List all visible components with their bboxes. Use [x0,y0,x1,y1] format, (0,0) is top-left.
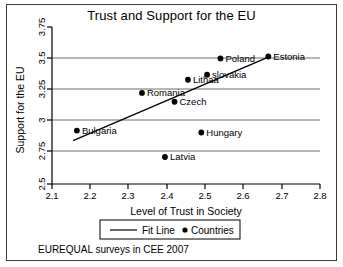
data-point-label: Estonia [273,51,305,62]
data-point-label: slovakia [212,69,247,80]
data-point [185,77,191,83]
legend-countries-swatch [182,227,187,232]
x-tick-label: 2.2 [83,190,96,201]
scatter-plot: 2.5 2.75 3 3.25 3.5 3.75 Support for the… [0,0,343,267]
data-point [74,128,80,134]
x-axis-title: Level of Trust in Society [130,205,242,217]
y-tick-label: 3.25 [36,80,47,99]
x-tick-label: 2.7 [275,190,288,201]
data-point-label: Czech [180,96,207,107]
legend-label-countries: Countries [191,225,234,236]
x-tick-label: 2.8 [313,190,326,201]
data-point [265,54,271,60]
chart-figure: Trust and Support for the EU 2.5 2.75 [0,0,343,267]
x-tick-label: 2.1 [45,190,58,201]
y-tick-label: 2.5 [36,177,47,190]
x-tick-label: 2.4 [160,190,173,201]
data-points: BulgariaRomaniaCzechLatviaHungaryLithaas… [74,51,306,162]
x-tick-label: 2.5 [198,190,211,201]
y-tick-label: 3.75 [36,18,47,37]
data-point-label: Hungary [206,127,242,138]
legend: Fit Line Countries [100,220,240,239]
data-point [172,99,178,105]
y-axis-title: Support for the EU [14,67,26,154]
y-axis-ticks [47,27,52,184]
data-point-label: Bulgaria [82,125,118,136]
y-tick-label: 3 [36,117,47,122]
data-point [162,154,168,160]
chart-caption: EUREQUAL surveys in CEE 2007 [38,244,189,255]
data-point-label: Latvia [170,151,196,162]
legend-label-fit-line: Fit Line [142,225,175,236]
data-point [204,72,210,78]
x-tick-label: 2.6 [236,190,249,201]
x-axis-ticks [52,184,320,189]
x-axis-tick-labels: 2.1 2.2 2.3 2.4 2.5 2.6 2.7 2.8 [45,190,326,201]
data-point [198,130,204,136]
data-point-label: Poland [225,53,255,64]
y-tick-label: 2.75 [36,142,47,161]
x-tick-label: 2.3 [121,190,134,201]
data-point [218,56,224,62]
data-point [139,90,145,96]
y-tick-label: 3.5 [36,51,47,64]
y-axis-tick-labels: 2.5 2.75 3 3.25 3.5 3.75 [36,18,47,191]
